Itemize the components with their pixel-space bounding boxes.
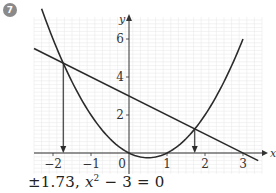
answer-roots: ±1.73, bbox=[28, 173, 85, 191]
answer-text: ±1.73, x2 − 3 = 0 bbox=[28, 173, 164, 191]
arrow-down-icon bbox=[60, 146, 66, 153]
axes bbox=[34, 14, 268, 174]
x-tick-label: 1 bbox=[163, 157, 171, 171]
x-axis-label: x bbox=[270, 147, 276, 160]
x-tick-label: −2 bbox=[44, 157, 62, 171]
answer-variable: x bbox=[85, 173, 94, 191]
grid bbox=[34, 17, 262, 174]
x-tick-label: 2 bbox=[201, 157, 209, 171]
y-axis-arrow-icon bbox=[126, 14, 132, 21]
y-tick-label: 2 bbox=[116, 108, 124, 122]
x-axis-arrow-icon bbox=[262, 150, 268, 156]
x-tick-label: −1 bbox=[82, 157, 100, 171]
answer-equation-rest: − 3 = 0 bbox=[100, 173, 165, 191]
x-tick-label: 0 bbox=[118, 157, 126, 171]
y-tick-label: 4 bbox=[116, 70, 124, 84]
y-axis-label: y bbox=[118, 13, 126, 26]
arrow-down-icon bbox=[192, 146, 198, 153]
straight-line bbox=[34, 49, 258, 161]
y-tick-label: 6 bbox=[116, 32, 124, 46]
x-tick-label: 3 bbox=[239, 157, 247, 171]
graph: −2−10123246xy bbox=[0, 0, 276, 193]
